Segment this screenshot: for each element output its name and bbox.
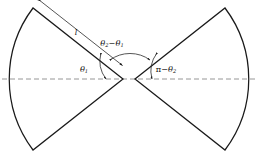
theta-diff-operator: − bbox=[109, 38, 116, 48]
theta1-subscript: 1 bbox=[85, 68, 88, 74]
theta-diff-subscript2: 1 bbox=[120, 42, 123, 48]
length-dimension-arrow bbox=[39, 0, 123, 66]
theta2-minus-theta1-angle-arc bbox=[110, 53, 150, 60]
theta1-angle-arc bbox=[100, 53, 106, 79]
bowtie-sector-diagram: l θ1 θ2−θ1 π−θ2 bbox=[0, 0, 258, 160]
pi-theta2-subscript: 2 bbox=[172, 68, 176, 74]
figure-canvas: l θ1 θ2−θ1 π−θ2 bbox=[0, 0, 258, 160]
length-label: l bbox=[75, 28, 78, 37]
pi-theta2-operator: − bbox=[161, 64, 168, 74]
theta1-label: θ1 bbox=[80, 64, 88, 74]
theta-difference-label: θ2−θ1 bbox=[100, 38, 123, 48]
right-sector-outline bbox=[135, 8, 249, 150]
pi-minus-theta2-label: π−θ2 bbox=[156, 64, 177, 74]
